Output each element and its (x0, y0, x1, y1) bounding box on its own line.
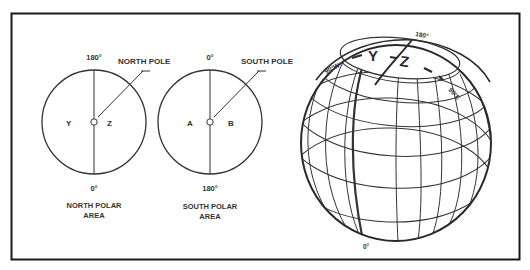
polar-areas-diagram: 180° NORTH POLE Y Z 0° NORTH POLAR AREA … (0, 0, 530, 270)
globe-letter-y: Y (368, 47, 378, 64)
north-right-letter: Z (107, 119, 112, 128)
north-left-letter: Y (66, 119, 72, 128)
globe-bottom-degree-label: 0° (363, 243, 370, 250)
north-pole-marker (91, 119, 97, 125)
south-right-letter: B (228, 119, 234, 128)
south-bottom-degree-label: 180° (202, 184, 218, 193)
north-pole-label: NORTH POLE (118, 57, 171, 66)
north-polar-area-figure: 180° NORTH POLE Y Z 0° NORTH POLAR AREA (42, 53, 171, 220)
north-polar-caption-line2: AREA (83, 211, 105, 220)
north-top-degree-label: 180° (86, 53, 102, 62)
south-pole-label: SOUTH POLE (241, 57, 294, 66)
south-polar-caption-line1: SOUTH POLAR (183, 202, 238, 211)
globe-top-degree-label: 180° (415, 30, 430, 39)
south-pole-marker (207, 119, 213, 125)
south-top-degree-label: 0° (206, 53, 213, 62)
north-polar-caption-line1: NORTH POLAR (67, 201, 123, 210)
south-polar-area-figure: 0° SOUTH POLE A B 180° SOUTH POLAR AREA (158, 53, 294, 221)
north-bottom-degree-label: 0° (90, 184, 97, 193)
south-left-letter: A (187, 119, 193, 128)
globe-figure: Y Z 180° 90°W 90°E 0° (280, 30, 503, 254)
south-polar-caption-line2: AREA (199, 212, 221, 221)
